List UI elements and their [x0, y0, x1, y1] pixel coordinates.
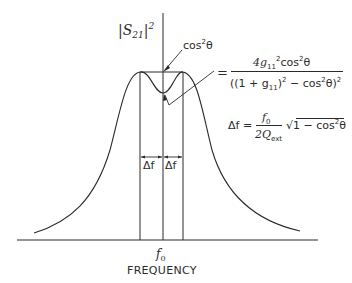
center-frequency-label: f0: [156, 248, 166, 263]
sqrt-icon: √: [286, 119, 293, 132]
arrowhead-icon: [178, 156, 182, 159]
peak-arrowhead-icon: [163, 65, 170, 72]
peak-level-label: cos2θ: [183, 39, 213, 51]
dip-equation-equals: =: [217, 66, 228, 79]
bandwidth-equation-numerator: f0: [262, 112, 271, 126]
bandwidth-equation-lhs: Δf =: [228, 120, 252, 131]
x-axis-label: FREQUENCY: [127, 265, 197, 276]
bandwidth-equation-fraction-bar: [256, 125, 282, 126]
bandwidth-equation-sqrt: √1 − cos2θ: [286, 119, 346, 131]
delta-f-left-label: Δf: [143, 160, 154, 171]
dip-equation-denominator: ((1 + g11)2 − cos2θ)2: [230, 77, 341, 92]
response-curve: [34, 72, 300, 233]
response-diagram: [0, 0, 352, 283]
bandwidth-equation-denominator: 2Qext: [255, 129, 282, 143]
arrowhead-icon: [158, 156, 162, 159]
sqrt-vinculum: [296, 118, 344, 119]
delta-f-right-label: Δf: [165, 160, 176, 171]
dip-equation-numerator: 4g112cos2θ: [253, 56, 310, 71]
dip-equation-fraction-bar: [231, 71, 343, 72]
y-axis-label: |S21|2: [118, 22, 154, 40]
